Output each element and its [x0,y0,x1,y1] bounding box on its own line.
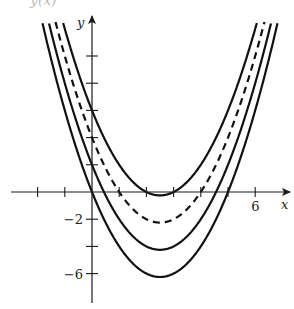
parabola-family-chart: 6−2−6 x y [0,0,294,309]
parabola-curve-4 [43,23,278,277]
axis-ticks [38,56,256,274]
y-tick-label: −2 [64,212,83,227]
x-tick-label: 6 [251,199,259,214]
y-axis-label: y [76,15,85,30]
y-tick-label: −6 [64,267,83,282]
x-axis-label: x [281,197,289,212]
curves-group [43,22,278,277]
tick-labels: 6−2−6 [64,199,260,282]
